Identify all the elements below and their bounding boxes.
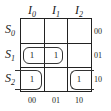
- col-label-i2: I2: [67, 3, 91, 19]
- col-label-i0: I0: [20, 3, 44, 19]
- group-loop-s1: [23, 47, 63, 64]
- grid-hline-2: [20, 67, 92, 68]
- row-code-0: 00: [94, 27, 102, 36]
- group-loop-s2-left: [15, 70, 42, 90]
- row-code-2: 10: [94, 75, 102, 84]
- col-code-1: 01: [44, 96, 68, 105]
- row-code-1: 01: [94, 51, 102, 60]
- group-loop-s2-right: [70, 70, 94, 90]
- row-label-s1: S1: [5, 47, 15, 63]
- col-code-2: 10: [67, 96, 91, 105]
- col-code-0: 00: [20, 96, 44, 105]
- col-label-i1: I1: [44, 3, 68, 19]
- row-label-s0: S0: [5, 22, 15, 38]
- grid-hline-1: [20, 43, 92, 44]
- row-label-s2: S2: [5, 71, 15, 87]
